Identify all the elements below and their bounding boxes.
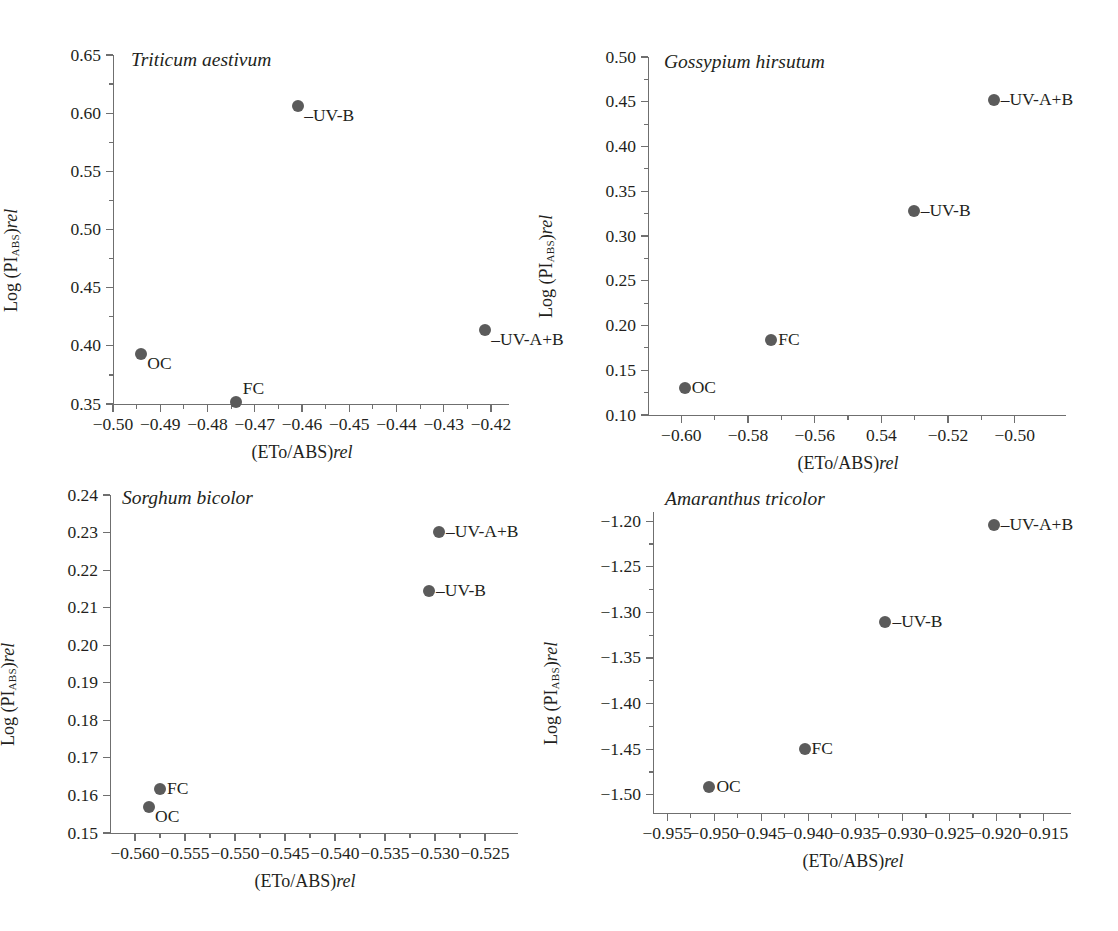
y-tick-major [103,607,110,608]
y-tick-minor [649,771,653,772]
y-tick-label: 0.21 [28,599,98,617]
y-tick-minor [644,124,648,125]
x-tick-minor [309,834,310,838]
x-tick-major [284,834,285,841]
y-tick-major [646,794,653,795]
x-tick-major [681,416,682,423]
y-tick-label: 0.45 [566,93,636,111]
x-tick-minor [372,405,373,409]
y-tick-label: −1.50 [571,786,641,804]
y-tick-label: 0.50 [31,221,101,239]
x-tick-minor [784,814,785,818]
y-tick-major [641,235,648,236]
x-tick-minor [259,834,260,838]
x-tick-major [1043,814,1044,821]
panel-triticum-aestivum: 0.350.400.450.500.550.600.65−0.50−0.49−0… [113,55,491,404]
panel-gossypium-hirsutum: 0.100.150.200.250.300.350.400.450.50−0.6… [648,57,1048,415]
y-tick-minor [644,258,648,259]
x-tick-major [1014,416,1015,423]
data-point-label-uv-a-b: –UV-A+B [446,523,518,541]
x-axis-line [113,404,509,405]
data-point-label-uv-b: –UV-B [892,613,942,631]
data-point-label-uv-a-b: –UV-A+B [491,331,563,349]
y-tick-label: −1.20 [571,513,641,531]
x-tick-major [747,416,748,423]
x-tick-major [490,405,491,412]
data-point-label-oc: OC [716,778,740,796]
y-axis-title: Log (PIABS)rel [536,215,557,318]
y-tick-minor [649,680,653,681]
data-point-uv-b [908,205,920,217]
x-tick-major [808,814,809,821]
x-tick-major [814,416,815,423]
x-tick-major [134,834,135,841]
data-point-label-fc: FC [243,380,264,398]
y-tick-label: 0.19 [28,674,98,692]
y-tick-minor [644,347,648,348]
x-tick-minor [209,834,210,838]
y-tick-major [646,657,653,658]
data-point-oc [679,382,691,394]
x-tick-minor [925,814,926,818]
y-tick-label: 0.45 [31,279,101,297]
y-axis-title: Log (PIABS)rel [0,643,19,746]
x-tick-major [667,814,668,821]
y-tick-label: −1.30 [571,604,641,622]
x-tick-major [902,814,903,821]
y-tick-label: −1.40 [571,695,641,713]
y-tick-major [103,570,110,571]
data-point-fc [230,396,242,408]
y-tick-label: 0.24 [28,487,98,505]
y-tick-minor [649,543,653,544]
y-tick-label: 0.30 [566,228,636,246]
data-point-fc [154,783,166,795]
x-tick-major [254,405,255,412]
data-point-oc [135,348,147,360]
data-point-oc [143,801,155,813]
x-tick-minor [183,405,184,409]
x-tick-minor [420,405,421,409]
y-tick-minor [644,79,648,80]
x-tick-major [349,405,350,412]
y-tick-label: 0.20 [28,637,98,655]
y-tick-label: 0.65 [31,47,101,65]
y-tick-label: 0.18 [28,712,98,730]
x-tick-minor [1019,814,1020,818]
x-tick-major [384,834,385,841]
y-tick-major [106,287,113,288]
data-point-fc [799,743,811,755]
data-point-label-fc: FC [812,740,833,758]
y-axis-line [653,512,654,813]
y-tick-major [103,645,110,646]
y-tick-major [103,832,110,833]
x-tick-major [996,814,997,821]
y-tick-major [641,101,648,102]
x-tick-major [234,834,235,841]
x-tick-major [112,405,113,412]
x-tick-label: −0.42 [448,416,534,434]
x-axis-line [110,833,518,834]
y-tick-label: 0.60 [31,105,101,123]
y-tick-major [641,325,648,326]
y-tick-minor [109,83,113,84]
x-tick-minor [737,814,738,818]
data-point-label-uv-a-b: –UV-A+B [1001,516,1073,534]
data-point-fc [765,334,777,346]
x-tick-minor [690,814,691,818]
y-tick-major [106,345,113,346]
x-tick-label: −0.915 [1001,825,1087,843]
y-tick-major [641,370,648,371]
data-point-label-oc: OC [155,808,179,826]
y-tick-major [103,795,110,796]
y-tick-major [103,532,110,533]
y-axis-line [110,495,111,833]
y-tick-label: 0.15 [28,825,98,843]
y-tick-minor [644,213,648,214]
y-tick-major [106,229,113,230]
x-tick-major [301,405,302,412]
x-axis-title: (ETo/ABS)rel [763,851,943,872]
x-tick-minor [278,405,279,409]
y-tick-major [103,757,110,758]
panel-amaranthus-tricolor: −1.50−1.45−1.40−1.35−1.30−1.25−1.20−0.95… [653,512,1053,813]
y-tick-label: 0.35 [31,396,101,414]
